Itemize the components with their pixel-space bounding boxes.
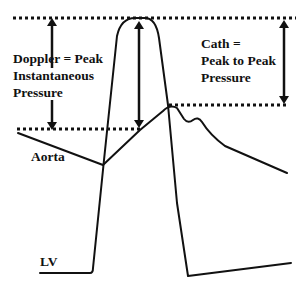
cath-label-line2: Peak to Peak bbox=[201, 53, 276, 68]
pressure-diagram: Doppler = Peak Instantaneous Pressure Ca… bbox=[0, 0, 301, 287]
cath-label-line3: Pressure bbox=[201, 70, 251, 85]
doppler-label-line2: Instantaneous bbox=[13, 68, 94, 83]
doppler-label-line1: Doppler = Peak bbox=[13, 51, 103, 66]
cath-label-line1: Cath = bbox=[201, 36, 241, 51]
lv-label: LV bbox=[40, 254, 58, 269]
doppler-label-line3: Pressure bbox=[13, 85, 63, 100]
aorta-label: Aorta bbox=[31, 149, 65, 164]
